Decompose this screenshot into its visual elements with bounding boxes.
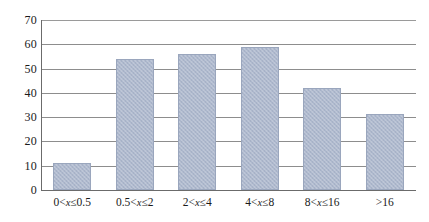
bar-slot [229, 20, 292, 190]
bar-4 [303, 88, 341, 190]
bar-5 [366, 114, 404, 191]
bar-2 [178, 54, 216, 190]
y-tick-label: 60 [3, 38, 37, 50]
x-tick-label-0: 0<x≤0.5 [53, 196, 91, 209]
variable-symbol: x [317, 197, 322, 208]
bar-0 [53, 163, 91, 190]
variable-symbol: x [137, 197, 142, 208]
x-tick-label-3: 4<x≤8 [245, 196, 274, 209]
bar-chart-figure: 70 60 50 40 30 20 10 0 [0, 0, 429, 222]
bar-3 [241, 47, 279, 190]
y-tick-label: 50 [3, 63, 37, 75]
y-axis-tick-labels: 70 60 50 40 30 20 10 0 [0, 20, 37, 190]
bar-slot [104, 20, 167, 190]
x-tick-label-4: 8<x≤16 [305, 196, 340, 209]
y-tick-label: 40 [3, 87, 37, 99]
bar-slot [166, 20, 229, 190]
bar-slot [291, 20, 354, 190]
x-axis-category-labels: 0<x≤0.5 0.5<x≤2 2<x≤4 4<x≤8 8<x≤16 >16 [41, 196, 416, 218]
y-tick-label: 20 [3, 135, 37, 147]
bars-layer [41, 20, 416, 190]
y-tick-label: 30 [3, 111, 37, 123]
bar-slot [41, 20, 104, 190]
variable-symbol: x [257, 197, 262, 208]
bar-slot [354, 20, 417, 190]
x-axis-baseline [41, 190, 416, 191]
bar-1 [116, 59, 154, 190]
variable-symbol: x [66, 197, 71, 208]
x-tick-label-5: >16 [376, 196, 394, 209]
variable-symbol: x [195, 197, 200, 208]
y-tick-label: 0 [3, 184, 37, 196]
x-tick-label-2: 2<x≤4 [183, 196, 212, 209]
x-tick-label-1: 0.5<x≤2 [116, 196, 154, 209]
y-tick-label: 70 [3, 14, 37, 26]
y-tick-label: 10 [3, 160, 37, 172]
